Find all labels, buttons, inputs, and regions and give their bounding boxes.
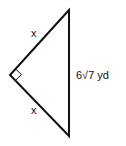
lower-leg-label: x [31, 104, 37, 116]
triangle [10, 10, 69, 136]
triangle-diagram: x x 6√7 yd [0, 0, 126, 146]
upper-leg-label: x [31, 27, 37, 39]
hypotenuse-label: 6√7 yd [76, 69, 109, 81]
right-angle-marker [16, 69, 22, 80]
